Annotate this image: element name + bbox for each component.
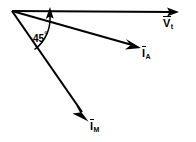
vector-label-vt: Vt [163,14,173,30]
vector-vt [12,8,179,17]
overbar-vt [163,16,172,17]
vector-symbol-im: I [90,121,93,132]
vector-ia-shaft [12,11,134,46]
vector-symbol-im-letter: I [90,120,93,132]
degree-symbol: ° [44,31,47,38]
overbar-im [90,119,95,120]
vector-subscript-vt: t [171,23,173,30]
vector-im-arrowhead [73,105,89,122]
vector-symbol-ia-letter: I [142,47,145,59]
vector-vt-shaft [12,11,173,12]
vector-im [12,11,89,122]
vector-im-shaft [12,11,82,112]
vector-subscript-im: M [94,126,100,133]
angle-label: 45° [33,32,47,44]
vector-ia [12,11,141,50]
vector-label-im: IM [90,117,99,133]
phasor-diagram-canvas: Vt IA IM 45° [0,0,196,142]
vector-symbol-ia: I [142,48,145,59]
vector-subscript-ia: A [146,53,151,60]
vector-symbol-vt: V [163,18,170,29]
vector-symbol-vt-letter: V [163,17,170,29]
overbar-ia [142,46,147,47]
vector-label-ia: IA [142,44,150,60]
angle-value: 45 [33,33,44,44]
